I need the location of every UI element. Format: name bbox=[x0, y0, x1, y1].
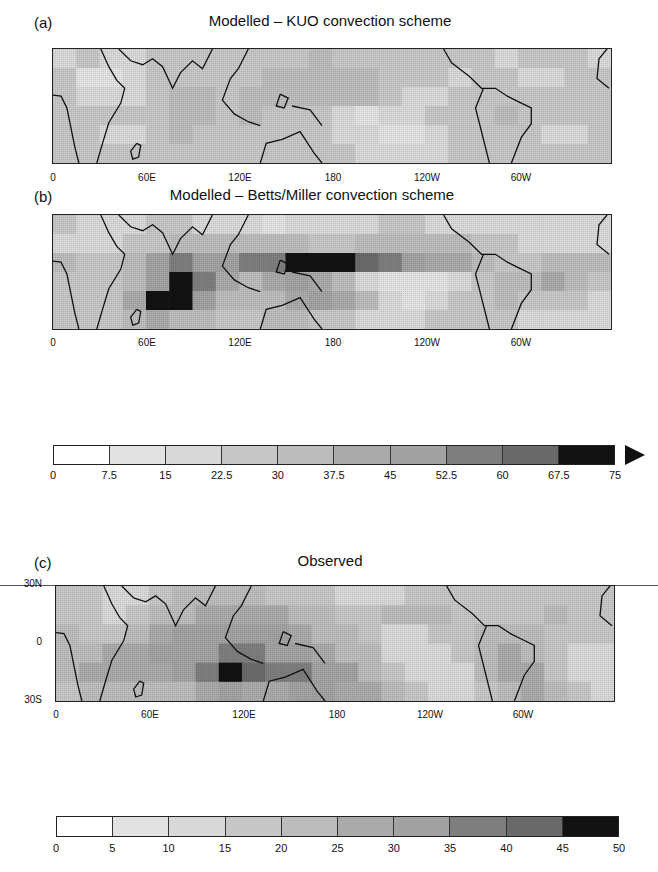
colorbar-tick-label: 60 bbox=[496, 469, 508, 481]
map-panel-c bbox=[55, 585, 615, 702]
colorbar-segment bbox=[113, 817, 169, 836]
colorbar-tick-label: 7.5 bbox=[102, 469, 117, 481]
colorbar-tick-label: 40 bbox=[500, 842, 512, 854]
colorbar-segment bbox=[222, 446, 278, 464]
colorbar-segment bbox=[278, 446, 334, 464]
x-tick: 120W bbox=[414, 172, 440, 183]
colorbar-tick-label: 45 bbox=[384, 469, 396, 481]
x-tick: 120W bbox=[414, 337, 440, 348]
y-tick: 30S bbox=[12, 694, 42, 705]
colorbar-segment bbox=[166, 446, 222, 464]
x-tick: 180 bbox=[325, 337, 342, 348]
colorbar-segment bbox=[334, 446, 390, 464]
x-tick: 0 bbox=[50, 337, 56, 348]
colorbar-tick-label: 30 bbox=[272, 469, 284, 481]
map-panel-a bbox=[52, 48, 612, 164]
colorbar-tick-label: 37.5 bbox=[323, 469, 344, 481]
x-tick: 120E bbox=[228, 337, 251, 348]
x-tick: 180 bbox=[325, 172, 342, 183]
colorbar-tick-label: 0 bbox=[50, 469, 56, 481]
colorbar-scale-1 bbox=[53, 445, 615, 465]
x-tick: 60W bbox=[511, 337, 532, 348]
x-tick: 0 bbox=[50, 172, 56, 183]
x-tick: 60W bbox=[511, 172, 532, 183]
map-panel-b bbox=[52, 214, 612, 330]
panel-b-title: Modelled – Betts/Miller convection schem… bbox=[170, 186, 454, 203]
x-tick: 0 bbox=[53, 709, 59, 720]
colorbar-segment bbox=[282, 817, 338, 836]
x-tick: 60W bbox=[513, 709, 534, 720]
colorbar-segment bbox=[57, 817, 113, 836]
x-tick: 180 bbox=[329, 709, 346, 720]
x-tick: 120E bbox=[232, 709, 255, 720]
colorbar-segment bbox=[226, 817, 282, 836]
colorbar-segment bbox=[450, 817, 506, 836]
colorbar-tick-label: 50 bbox=[613, 842, 625, 854]
x-tick: 60E bbox=[138, 172, 156, 183]
colorbar-segment bbox=[169, 817, 225, 836]
colorbar-tick-label: 52.5 bbox=[436, 469, 457, 481]
x-tick: 120W bbox=[417, 709, 443, 720]
colorbar-tick-label: 67.5 bbox=[548, 469, 569, 481]
panel-b-label: (b) bbox=[34, 188, 52, 205]
colorbar-tick-label: 10 bbox=[162, 842, 174, 854]
colorbar-tick-label: 20 bbox=[275, 842, 287, 854]
colorbar-extend-arrow-icon bbox=[625, 445, 645, 465]
colorbar-segment bbox=[54, 446, 110, 464]
x-tick: 60E bbox=[138, 337, 156, 348]
y-tick: 30N bbox=[12, 578, 42, 589]
x-tick: 120E bbox=[228, 172, 251, 183]
colorbar-tick-label: 5 bbox=[109, 842, 115, 854]
colorbar-tick-label: 25 bbox=[331, 842, 343, 854]
panel-c-label: (c) bbox=[34, 554, 52, 571]
colorbar-tick-label: 45 bbox=[557, 842, 569, 854]
colorbar-segment bbox=[507, 817, 563, 836]
colorbar-tick-label: 75 bbox=[609, 469, 621, 481]
y-tick: 0 bbox=[12, 636, 42, 647]
colorbar-tick-label: 15 bbox=[219, 842, 231, 854]
colorbar-segment bbox=[391, 446, 447, 464]
colorbar-tick-label: 15 bbox=[159, 469, 171, 481]
colorbar-segment bbox=[394, 817, 450, 836]
colorbar-tick-label: 30 bbox=[388, 842, 400, 854]
colorbar-segment bbox=[559, 446, 614, 464]
panel-c-title: Observed bbox=[297, 552, 362, 569]
colorbar-tick-label: 22.5 bbox=[211, 469, 232, 481]
colorbar-tick-label: 35 bbox=[444, 842, 456, 854]
panel-a-title: Modelled – KUO convection scheme bbox=[209, 12, 452, 29]
colorbar-segment bbox=[110, 446, 166, 464]
x-tick: 60E bbox=[141, 709, 159, 720]
colorbar-segment bbox=[338, 817, 394, 836]
colorbar-scale-2 bbox=[56, 816, 619, 837]
panel-a-label: (a) bbox=[34, 14, 52, 31]
colorbar-segment bbox=[563, 817, 618, 836]
colorbar-segment bbox=[503, 446, 559, 464]
colorbar-tick-label: 0 bbox=[53, 842, 59, 854]
colorbar-segment bbox=[447, 446, 503, 464]
